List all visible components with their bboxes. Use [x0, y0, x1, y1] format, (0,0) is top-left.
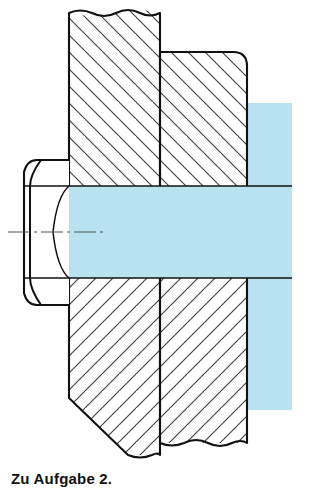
left-plate-hatch-lower: [60, 270, 175, 462]
right-plate-hatch-lower: [152, 270, 256, 455]
technical-drawing: [0, 0, 309, 462]
caption-bar: Zu Aufgabe 2.: [0, 462, 309, 501]
right-plate-hatch-upper: [152, 40, 256, 200]
drawing-canvas: [0, 0, 309, 462]
figure-caption: Zu Aufgabe 2.: [11, 470, 112, 487]
figure-root: Zu Aufgabe 2.: [0, 0, 309, 501]
left-plate-hatch-upper: [60, 0, 175, 200]
